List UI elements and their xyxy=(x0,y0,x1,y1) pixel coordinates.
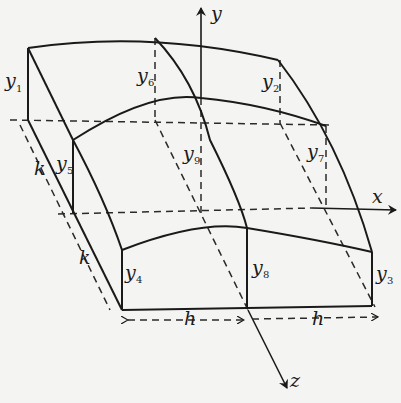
svg-text:y: y xyxy=(251,256,263,278)
svg-text:y: y xyxy=(306,140,318,162)
svg-text:y: y xyxy=(4,69,16,91)
mid-top-curve xyxy=(73,97,326,140)
svg-text:6: 6 xyxy=(148,77,154,88)
label-y-axis: y xyxy=(210,2,222,24)
back-top-curve xyxy=(28,41,278,60)
label-y4: y4 xyxy=(124,261,142,285)
svg-text:y: y xyxy=(124,261,136,283)
label-y2: y2 xyxy=(261,70,279,94)
label-y6: y6 xyxy=(136,64,154,88)
left-top-edge xyxy=(28,48,73,140)
svg-text:2: 2 xyxy=(273,83,279,94)
label-y8: y8 xyxy=(251,256,269,280)
svg-text:y: y xyxy=(375,262,387,284)
label-h-left: h xyxy=(184,307,196,329)
svg-text:y: y xyxy=(261,70,273,92)
svg-text:1: 1 xyxy=(16,83,22,94)
label-y7: y7 xyxy=(306,140,324,164)
svg-text:3: 3 xyxy=(387,275,393,286)
label-x-axis: x xyxy=(372,185,383,207)
label-y3: y3 xyxy=(375,262,393,286)
label-y1: y1 xyxy=(4,69,22,94)
label-z-axis: z xyxy=(289,369,301,391)
mid-base-line xyxy=(58,208,312,214)
svg-text:4: 4 xyxy=(136,274,142,285)
svg-text:8: 8 xyxy=(263,269,269,280)
left-front-top-edge xyxy=(73,140,122,250)
diagram-svg: y1 y6 y2 y5 y9 y7 y4 y8 y3 y x z k k h h xyxy=(0,0,401,403)
svg-text:y: y xyxy=(136,64,148,86)
svg-text:9: 9 xyxy=(194,155,200,166)
label-k-upper: k xyxy=(34,157,46,179)
surface-volume-diagram: y1 y6 y2 y5 y9 y7 y4 y8 y3 y x z k k h h xyxy=(0,0,401,403)
svg-text:y: y xyxy=(55,152,67,174)
svg-text:7: 7 xyxy=(318,153,324,164)
svg-text:y: y xyxy=(182,142,194,164)
label-y9: y9 xyxy=(182,142,200,166)
label-k-lower: k xyxy=(79,246,91,268)
back-base-line xyxy=(10,120,330,125)
right-depth-curve xyxy=(278,60,372,252)
label-h-right: h xyxy=(312,307,324,329)
label-y5: y5 xyxy=(55,152,73,176)
svg-text:5: 5 xyxy=(67,165,73,176)
z-axis xyxy=(248,310,287,388)
